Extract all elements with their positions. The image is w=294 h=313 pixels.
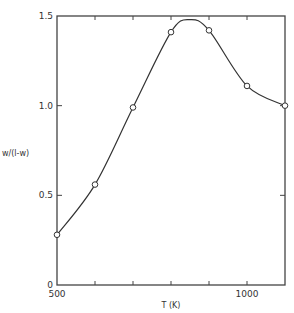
data-point-marker xyxy=(130,105,136,111)
plot-frame xyxy=(57,16,285,285)
y-tick-label: 1.0 xyxy=(39,101,54,111)
data-point-marker xyxy=(244,83,250,89)
data-points xyxy=(54,28,288,238)
line-chart: 500100000.51.01.5T (K)w/(l-w) xyxy=(0,0,294,313)
data-point-marker xyxy=(168,29,174,35)
plot-border xyxy=(57,16,285,285)
y-tick-label: 1.5 xyxy=(39,11,53,21)
y-tick-label: 0.5 xyxy=(39,190,53,200)
axis-ticks xyxy=(57,16,285,285)
y-axis-label: w/(l-w) xyxy=(2,149,29,158)
fitted-curve xyxy=(57,20,285,235)
axis-labels: 500100000.51.01.5T (K)w/(l-w) xyxy=(2,11,259,310)
curve-path xyxy=(57,20,285,235)
x-axis-label: T (K) xyxy=(161,301,181,310)
x-tick-label: 500 xyxy=(48,289,65,299)
data-point-marker xyxy=(92,182,98,188)
data-point-marker xyxy=(282,103,288,109)
data-point-marker xyxy=(54,232,60,238)
data-point-marker xyxy=(206,28,212,34)
x-tick-label: 1000 xyxy=(236,289,259,299)
y-tick-label: 0 xyxy=(47,280,53,290)
